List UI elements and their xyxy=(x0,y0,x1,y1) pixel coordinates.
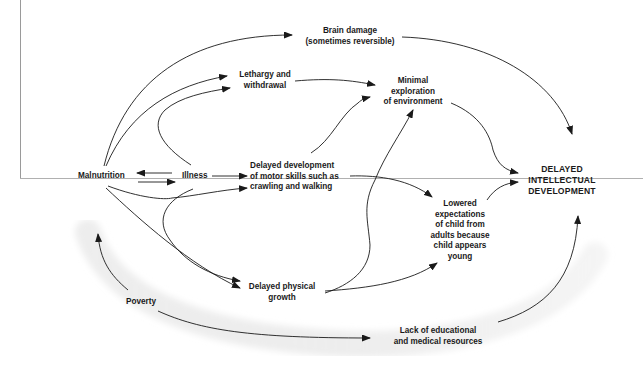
edge-illness-delayed-physical xyxy=(163,189,240,281)
node-delayed-intellectual-development: DELAYED INTELLECTUAL DEVELOPMENT xyxy=(518,164,606,197)
edge-delayed-motor-lowered-expectations xyxy=(350,176,432,197)
edge-delayed-motor-minimal-exploration xyxy=(311,97,370,153)
edge-illness-lethargy xyxy=(158,88,230,165)
node-brain-damage: Brain damage (sometimes reversible) xyxy=(295,26,405,47)
edge-malnutrition-lethargy xyxy=(106,76,227,166)
node-poverty: Poverty xyxy=(126,297,176,308)
edge-malnutrition-brain-damage xyxy=(104,35,292,166)
edge-delayed-physical-lowered-expectations xyxy=(325,263,437,291)
node-malnutrition: Malnutrition xyxy=(78,171,138,182)
edge-minimal-exploration-delayed-intellectual xyxy=(451,103,518,173)
shaded-poverty-arc xyxy=(88,232,595,344)
edge-lowered-expectations-delayed-intellectual xyxy=(487,182,518,200)
node-lethargy: Lethargy and withdrawal xyxy=(230,70,300,91)
node-delayed-physical-growth: Delayed physical growth xyxy=(242,282,322,303)
edge-delayed-physical-minimal-exploration xyxy=(325,110,413,293)
node-minimal-exploration: Minimal exploration of environment xyxy=(373,76,453,108)
node-lowered-expectations: Lowered expectations of child from adult… xyxy=(424,199,496,263)
node-lack-of-resources: Lack of educational and medical resource… xyxy=(388,326,488,347)
node-delayed-motor-skills: Delayed development of motor skills such… xyxy=(250,161,355,193)
edge-lethargy-minimal-exploration xyxy=(295,80,375,85)
node-illness: Illness xyxy=(182,171,212,182)
